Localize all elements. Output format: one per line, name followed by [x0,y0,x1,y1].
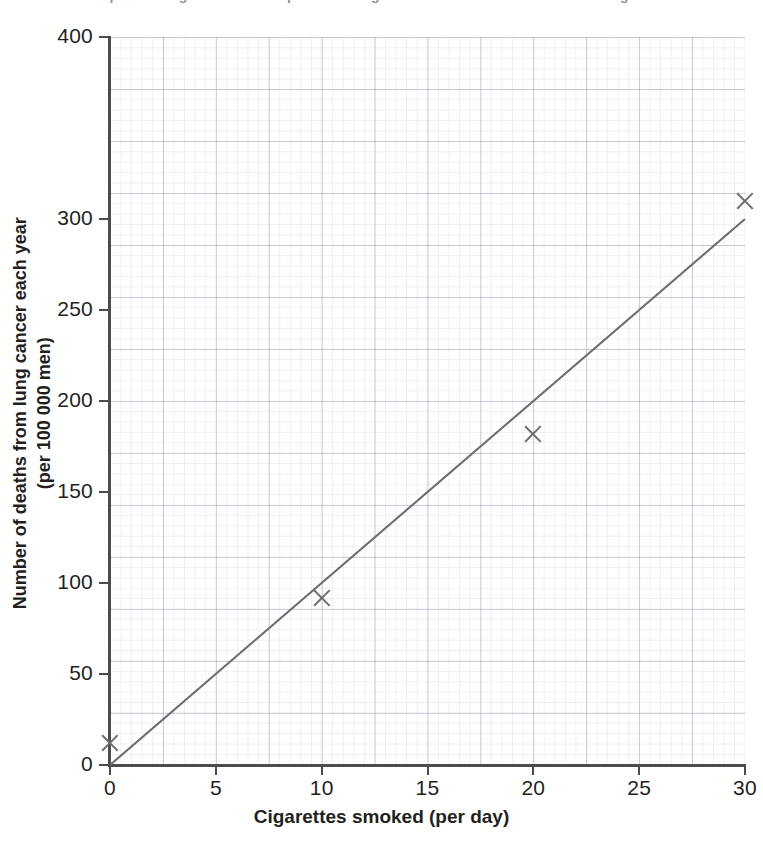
x-tick [427,765,429,775]
scatter-chart: 050100150200250300400 051015202530 Cigar… [0,0,763,843]
x-tick-label: 10 [292,776,352,800]
y-axis-title: Number of deaths from lung cancer each y… [8,63,57,763]
x-tick-label: 15 [398,776,458,800]
y-tick [99,673,110,675]
y-tick [99,218,110,220]
x-tick [744,765,746,775]
x-tick-label: 30 [715,776,763,800]
major-grid [110,37,745,765]
y-axis-title-line1: Number of deaths from lung cancer each y… [10,217,30,609]
y-tick [99,309,110,311]
y-tick-label: 400 [33,24,93,48]
y-tick [99,582,110,584]
x-tick-label: 25 [609,776,669,800]
y-tick [99,36,110,38]
x-tick [321,765,323,775]
x-axis-title: Cigarettes smoked (per day) [0,806,763,828]
x-tick-label: 0 [80,776,140,800]
data-point [522,423,544,445]
x-tick-label: 5 [186,776,246,800]
plot-area [110,37,745,765]
y-tick [99,491,110,493]
x-tick [215,765,217,775]
y-axis-title-line2: (per 100 000 men) [32,63,56,763]
y-tick [99,400,110,402]
x-tick-label: 20 [503,776,563,800]
data-point [99,732,121,754]
data-point [311,587,333,609]
data-point [734,190,756,212]
x-tick [638,765,640,775]
x-tick [109,765,111,775]
x-tick [532,765,534,775]
